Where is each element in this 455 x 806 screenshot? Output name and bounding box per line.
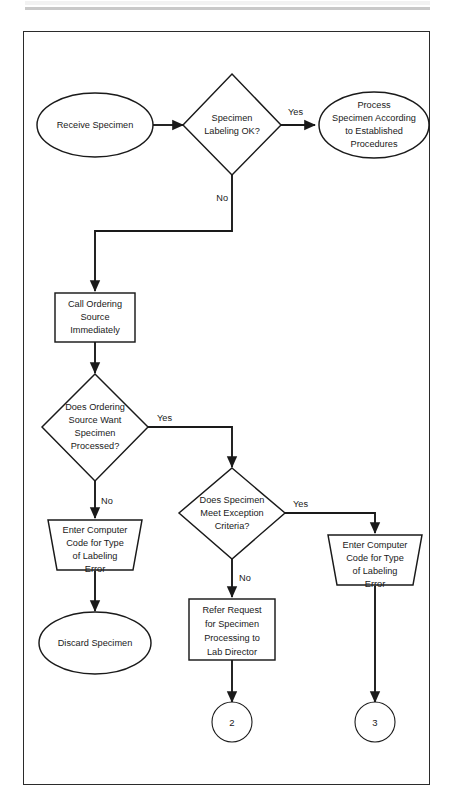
flowchart-page: Yes No Yes No Yes No Receive Specimen Sp… <box>0 0 455 806</box>
header-rule-faint <box>25 1 430 5</box>
diagram-frame <box>23 31 430 785</box>
header-rule <box>25 7 430 10</box>
